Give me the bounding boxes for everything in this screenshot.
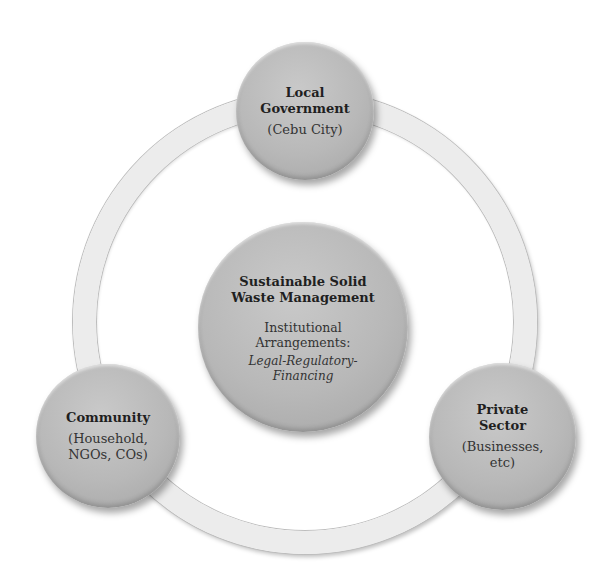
node-local-government: Local Government (Cebu City)	[236, 42, 374, 180]
node-center-hub: Sustainable Solid Waste Management Insti…	[198, 222, 408, 432]
center-subtitle: Institutional Arrangements:	[256, 320, 351, 350]
node-title: Private	[477, 402, 529, 418]
center-subtitle-line: Institutional	[256, 320, 351, 335]
node-subtitle: (Household, NGOs, COs)	[68, 431, 148, 463]
center-title: Waste Management	[231, 290, 375, 306]
node-title: Local	[285, 85, 324, 101]
center-subtitle-line: Arrangements:	[256, 335, 351, 350]
center-detail: Legal-Regulatory- Financing	[249, 354, 358, 384]
center-detail-line: Financing	[249, 369, 358, 384]
center-title: Sustainable Solid	[239, 274, 366, 290]
node-subtitle: (Businesses, etc)	[462, 439, 544, 471]
node-title: Government	[260, 101, 349, 117]
center-detail-line: Legal-Regulatory-	[249, 354, 358, 369]
node-subtitle-line: NGOs, COs)	[68, 447, 148, 463]
node-subtitle-line: (Household,	[68, 431, 148, 447]
node-subtitle-line: (Businesses,	[462, 439, 544, 455]
node-private-sector: Private Sector (Businesses, etc)	[429, 363, 576, 510]
node-title: Sector	[479, 418, 526, 434]
node-subtitle: (Cebu City)	[267, 122, 342, 138]
node-subtitle-line: etc)	[462, 455, 544, 471]
node-title: Community	[66, 410, 150, 426]
node-community: Community (Household, NGOs, COs)	[36, 364, 180, 508]
